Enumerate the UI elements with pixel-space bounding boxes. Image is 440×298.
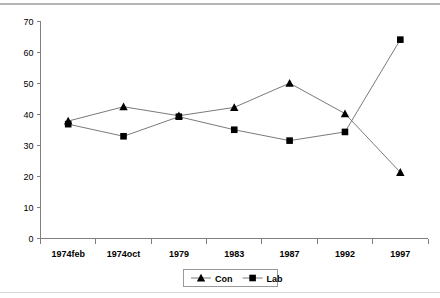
chart-legend[interactable]: ConLab	[184, 270, 284, 287]
data-point-lab	[397, 36, 404, 43]
data-point-lab	[342, 129, 349, 136]
series-line-lab	[68, 40, 400, 141]
y-axis-tick-label: 50	[23, 79, 33, 89]
line-chart: 010203040506070 1974feb1974oct1979198319…	[0, 0, 440, 298]
x-axis-category-label: 1992	[335, 249, 355, 259]
x-axis-category-label: 1997	[390, 249, 410, 259]
y-axis-tick-label: 70	[23, 17, 33, 27]
x-axis-category-label: 1979	[169, 249, 189, 259]
y-axis-tick-label: 30	[23, 141, 33, 151]
data-point-lab	[286, 137, 293, 144]
data-point-con	[341, 109, 349, 117]
x-axis-category-label: 1974feb	[51, 249, 85, 259]
y-axis-tick-label: 0	[28, 234, 33, 244]
x-axis-category-label: 1983	[224, 249, 244, 259]
legend-marker-lab	[249, 275, 256, 282]
data-point-lab	[231, 126, 238, 133]
legend-label-lab[interactable]: Lab	[267, 274, 284, 284]
data-point-con	[230, 103, 238, 111]
data-point-lab	[176, 113, 183, 120]
data-point-lab	[65, 121, 72, 128]
bottom-divider-rule	[0, 292, 440, 293]
x-axis-category-label: 1974oct	[107, 249, 141, 259]
x-axis-category-label: 1987	[280, 249, 300, 259]
y-axis-tick-label: 40	[23, 110, 33, 120]
data-point-con	[119, 103, 127, 111]
data-point-lab	[120, 133, 127, 140]
y-axis-tick-label: 60	[23, 48, 33, 58]
y-axis-tick-group: 010203040506070	[23, 17, 40, 245]
data-series-group	[64, 36, 405, 176]
x-axis-label-group: 1974feb1974oct19791983198719921997	[51, 249, 410, 259]
y-axis-tick-label: 10	[23, 203, 33, 213]
legend-label-con[interactable]: Con	[215, 274, 233, 284]
data-point-con	[285, 79, 293, 87]
x-axis-tick-group	[41, 239, 429, 244]
chart-page: 010203040506070 1974feb1974oct1979198319…	[0, 0, 440, 298]
y-axis-tick-label: 20	[23, 172, 33, 182]
